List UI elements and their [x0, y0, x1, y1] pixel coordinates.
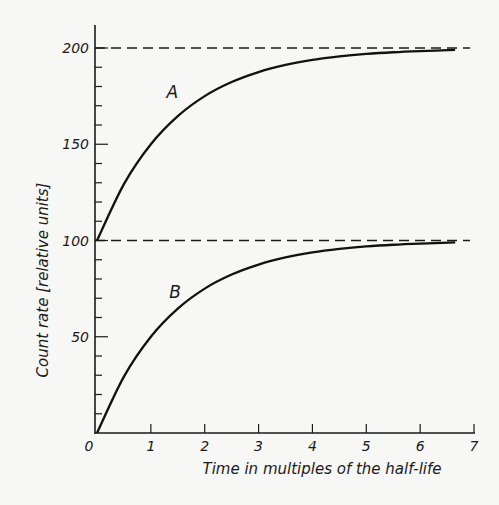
curve-B: [97, 242, 455, 433]
x-ticks: 01234567: [85, 424, 479, 454]
curve-A: [97, 50, 455, 241]
y-ticks: 50100150200: [62, 40, 108, 414]
x-tick-label: 1: [146, 438, 155, 454]
y-axis-label: Count rate [relative units]: [34, 182, 52, 377]
y-tick-label: 50: [71, 329, 89, 345]
x-tick-label: 6: [416, 438, 425, 454]
x-tick-label: 4: [308, 438, 317, 454]
x-tick-label: 0: [85, 438, 94, 454]
curves: [97, 50, 455, 433]
x-axis-label: Time in multiples of the half-life: [203, 460, 442, 478]
axes: [95, 25, 475, 434]
curve-label-B: B: [169, 282, 181, 302]
y-tick-label: 100: [62, 233, 89, 249]
x-tick-label: 2: [200, 438, 209, 454]
y-tick-label: 200: [62, 40, 89, 56]
x-tick-label: 3: [254, 438, 263, 454]
x-tick-label: 7: [470, 438, 479, 454]
curve-label-A: A: [166, 82, 179, 102]
x-tick-label: 5: [362, 438, 371, 454]
y-tick-label: 150: [62, 136, 89, 152]
chart: 50100150200 01234567 AB Time in multiple…: [0, 0, 499, 505]
